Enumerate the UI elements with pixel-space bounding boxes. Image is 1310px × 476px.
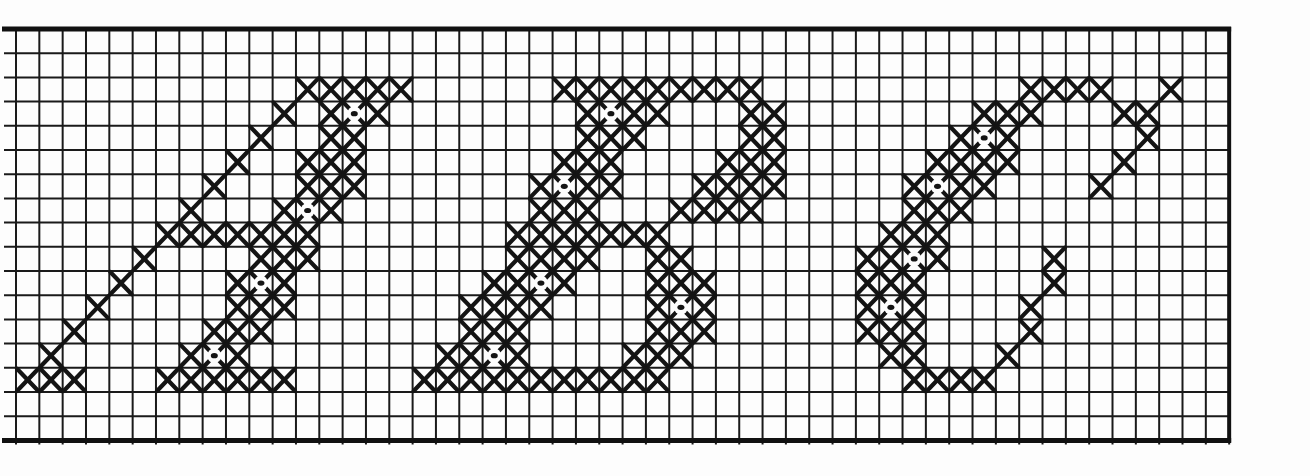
dot-marker-icon — [211, 353, 218, 358]
dot-marker-icon — [934, 184, 941, 189]
dot-marker-icon — [561, 184, 568, 189]
dot-marker-icon — [887, 305, 894, 310]
dot-marker-icon — [351, 111, 358, 116]
dot-marker-icon — [304, 208, 311, 213]
dot-marker-icon — [607, 111, 614, 116]
dot-marker-icon — [491, 353, 498, 358]
dot-marker-icon — [257, 281, 264, 286]
cross-stitch-pattern-sheet: ABC — [0, 0, 1310, 476]
stitch-grid-chart — [0, 0, 1310, 476]
dot-marker-icon — [981, 135, 988, 140]
dot-marker-icon — [537, 281, 544, 286]
dot-marker-icon — [677, 305, 684, 310]
dot-marker-icon — [911, 256, 918, 261]
chart-border — [2, 27, 1231, 442]
